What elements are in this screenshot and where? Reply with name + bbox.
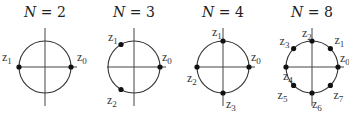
panel-n-3: N = 3z0z1z2 bbox=[107, 4, 172, 109]
panel-n-2: N = 2z0z1 bbox=[2, 4, 87, 106]
root-point-z0 bbox=[68, 64, 73, 69]
root-label-z0: z0 bbox=[162, 50, 172, 66]
root-point-z6 bbox=[309, 90, 314, 95]
root-label-z6: z6 bbox=[312, 97, 322, 113]
root-label-z2: z2 bbox=[107, 93, 117, 109]
root-label-z1: z1 bbox=[334, 33, 344, 49]
panel-title: N = 2 bbox=[23, 4, 66, 20]
root-label-z3: z3 bbox=[280, 34, 290, 50]
root-label-z0: z0 bbox=[340, 51, 349, 67]
root-label-z2: z2 bbox=[302, 26, 312, 42]
root-label-z0: z0 bbox=[251, 50, 261, 66]
root-point-z1 bbox=[328, 46, 333, 51]
root-point-z3 bbox=[220, 90, 225, 95]
root-label-z1: z1 bbox=[108, 30, 118, 46]
panel-title: N = 3 bbox=[112, 4, 155, 20]
root-point-z2 bbox=[194, 64, 199, 69]
root-label-z5: z5 bbox=[278, 88, 288, 104]
panel-title: N = 4 bbox=[201, 4, 244, 20]
root-point-z5 bbox=[291, 83, 296, 88]
root-point-z1 bbox=[118, 42, 123, 47]
root-point-z1 bbox=[16, 64, 21, 69]
root-point-z0 bbox=[335, 64, 340, 69]
roots-of-unity-figure: N = 2z0z1N = 3z0z1z2N = 4z0z1z2z3N = 8z0… bbox=[0, 0, 349, 113]
root-point-z7 bbox=[328, 83, 333, 88]
panel-title: N = 8 bbox=[290, 4, 333, 20]
root-label-z7: z7 bbox=[333, 88, 343, 104]
root-label-z4: z4 bbox=[283, 69, 293, 85]
panel-n-8: N = 8z0z1z2z3z4z5z6z7 bbox=[278, 4, 349, 113]
root-label-z2: z2 bbox=[187, 71, 197, 87]
root-point-z3 bbox=[291, 46, 296, 51]
root-point-z0 bbox=[157, 64, 162, 69]
root-label-z0: z0 bbox=[77, 50, 87, 66]
root-point-z0 bbox=[246, 64, 251, 69]
panel-n-4: N = 4z0z1z2z3 bbox=[187, 4, 261, 113]
root-label-z3: z3 bbox=[226, 97, 236, 113]
root-label-z1: z1 bbox=[2, 50, 12, 66]
root-point-z2 bbox=[118, 87, 123, 92]
root-label-z1: z1 bbox=[212, 25, 222, 41]
